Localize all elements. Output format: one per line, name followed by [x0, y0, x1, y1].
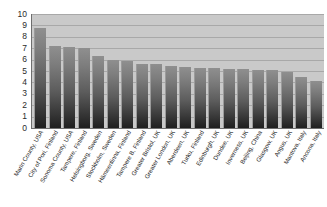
bar	[223, 69, 235, 128]
bar	[165, 66, 177, 128]
y-tick-label: 0	[22, 124, 27, 133]
bar	[150, 64, 162, 128]
bar	[107, 60, 119, 128]
y-tick-label: 4	[22, 78, 27, 87]
bar	[49, 46, 61, 128]
y-tick-label: 10	[18, 10, 27, 19]
bar	[136, 64, 148, 128]
bar	[237, 69, 249, 128]
bar	[34, 28, 46, 128]
x-axis-labels: Marin County, USACity of Pori, FinlandSo…	[31, 129, 323, 207]
bar	[194, 68, 206, 128]
y-tick-label: 6	[22, 55, 27, 64]
bar	[252, 70, 264, 128]
bar	[63, 47, 75, 129]
y-axis: 109876543210	[0, 10, 30, 130]
bars-container	[32, 14, 324, 128]
bar	[179, 67, 191, 128]
bar	[295, 77, 307, 128]
bar	[121, 61, 133, 128]
y-tick-label: 1	[22, 112, 27, 121]
bar-chart: 109876543210 Marin County, USACity of Po…	[0, 0, 327, 207]
bar	[281, 72, 293, 128]
y-tick-label: 2	[22, 101, 27, 110]
bar	[310, 81, 322, 128]
bar	[208, 68, 220, 128]
bar	[78, 48, 90, 128]
y-tick-label: 5	[22, 67, 27, 76]
y-tick-label: 3	[22, 89, 27, 98]
y-tick-label: 8	[22, 32, 27, 41]
bar	[92, 56, 104, 128]
bar	[266, 70, 278, 128]
y-tick-label: 9	[22, 21, 27, 30]
y-tick-label: 7	[22, 44, 27, 53]
plot-area	[31, 14, 324, 129]
